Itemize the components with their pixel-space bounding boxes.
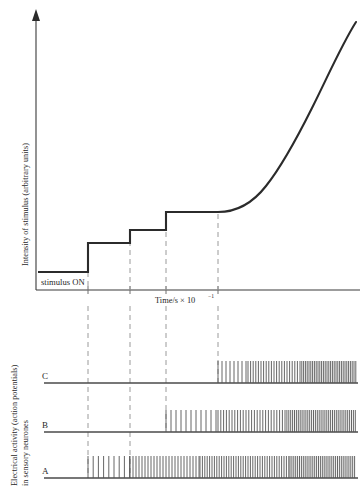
trace-label-c: C (42, 371, 48, 381)
top-x-axis-label-text: Time/s × 10 (155, 296, 195, 305)
top-panel-event-dashes (88, 214, 218, 290)
stimulus-on-note: stimulus ON (41, 277, 85, 287)
stimulus-neurone-figure: Intensity of stimulus (arbitrary units) … (0, 0, 364, 489)
bottom-panel: C B A Electrical activity (action potent… (10, 306, 358, 486)
top-y-axis-arrowhead (32, 9, 40, 21)
bottom-y-axis-label-line2: in sensory neurones (21, 420, 30, 486)
spike-train-c (218, 361, 356, 383)
spike-train-b (166, 410, 355, 432)
top-x-axis-label-exponent: −1 (208, 293, 214, 299)
stimulus-exponential-rise (218, 22, 356, 212)
top-x-axis-label: Time/s × 10 −1 (155, 293, 214, 305)
bottom-y-axis-label-line1: Electrical activity (action potentials) (10, 364, 19, 486)
trace-label-a: A (42, 466, 49, 476)
trace-label-b: B (42, 420, 48, 430)
spike-train-a (88, 456, 355, 478)
bottom-panel-event-dashes (88, 306, 218, 478)
top-panel: Intensity of stimulus (arbitrary units) … (21, 9, 360, 305)
top-y-axis-label: Intensity of stimulus (arbitrary units) (21, 143, 30, 266)
stimulus-staircase (38, 212, 218, 272)
figure-canvas: Intensity of stimulus (arbitrary units) … (0, 0, 364, 489)
